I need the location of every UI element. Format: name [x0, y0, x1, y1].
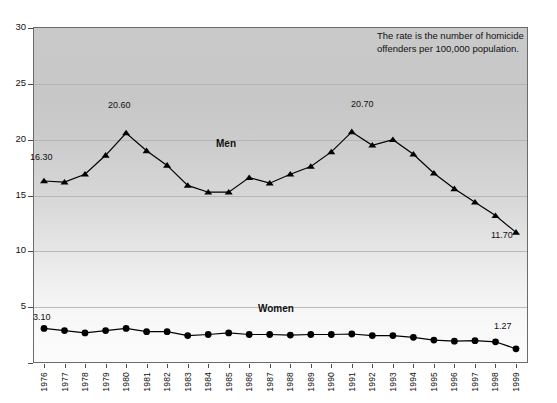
x-axis-label: 1986: [244, 372, 254, 392]
x-axis-tick: [229, 364, 230, 368]
x-axis-label: 1988: [285, 372, 295, 392]
x-axis-tick: [311, 364, 312, 368]
x-axis-tick: [290, 364, 291, 368]
x-axis-tick: [85, 364, 86, 368]
x-axis-label: 1984: [203, 372, 213, 392]
x-axis-tick: [249, 364, 250, 368]
gridline: [34, 251, 527, 252]
chart-annotation: The rate is the number of homicide offen…: [377, 30, 524, 55]
x-axis-label: 1978: [80, 372, 90, 392]
x-axis-label: 1994: [408, 372, 418, 392]
y-axis-label: 25: [2, 78, 26, 88]
y-axis-label: 30: [2, 22, 26, 32]
x-axis-tick: [65, 364, 66, 368]
x-axis-tick: [413, 364, 414, 368]
x-axis-tick: [208, 364, 209, 368]
series-label-men: Men: [216, 138, 236, 149]
y-axis-tick: [28, 28, 33, 29]
x-axis-label: 1987: [265, 372, 275, 392]
x-axis-label: 1985: [224, 372, 234, 392]
x-axis-label: 1999: [511, 372, 521, 392]
x-axis-label: 1976: [39, 372, 49, 392]
gridline: [34, 84, 527, 85]
x-axis-label: 1997: [470, 372, 480, 392]
point-label-women-last: 1.27: [494, 321, 512, 331]
gridline: [34, 140, 527, 141]
x-axis-tick: [147, 364, 148, 368]
y-axis-tick: [28, 251, 33, 252]
homicide-offender-rate-chart: 51015202530 1976197719781979198019811982…: [0, 0, 557, 403]
x-axis-tick: [516, 364, 517, 368]
x-axis-tick: [454, 364, 455, 368]
x-axis-tick: [270, 364, 271, 368]
x-axis-label: 1983: [183, 372, 193, 392]
x-axis-tick: [188, 364, 189, 368]
x-axis-label: 1996: [449, 372, 459, 392]
x-axis-tick: [475, 364, 476, 368]
x-axis-label: 1980: [121, 372, 131, 392]
x-axis-label: 1981: [142, 372, 152, 392]
x-axis-label: 1990: [326, 372, 336, 392]
x-axis-label: 1993: [388, 372, 398, 392]
x-axis-tick: [331, 364, 332, 368]
x-axis-tick: [434, 364, 435, 368]
x-axis-label: 1982: [162, 372, 172, 392]
x-axis-tick: [126, 364, 127, 368]
y-axis-label: 20: [2, 134, 26, 144]
gridline: [34, 196, 527, 197]
y-axis-tick: [28, 196, 33, 197]
y-axis-tick: [28, 140, 33, 141]
y-axis-tick: [28, 307, 33, 308]
point-label-men-last: 11.70: [491, 230, 513, 240]
y-axis-label: 5: [2, 301, 26, 311]
y-axis-tick: [28, 84, 33, 85]
point-label-men-peak-1991: 20.70: [351, 99, 374, 109]
y-axis-label: 15: [2, 190, 26, 200]
y-axis-label: 10: [2, 245, 26, 255]
x-axis-label: 1998: [490, 372, 500, 392]
x-axis-label: 1979: [101, 372, 111, 392]
x-axis-tick: [495, 364, 496, 368]
x-axis-tick: [352, 364, 353, 368]
x-axis-tick: [393, 364, 394, 368]
series-label-women: Women: [258, 303, 294, 314]
x-axis-label: 1989: [306, 372, 316, 392]
x-axis-label: 1995: [429, 372, 439, 392]
x-axis-tick: [167, 364, 168, 368]
y-axis-tick: [28, 363, 33, 364]
x-axis-label: 1977: [60, 372, 70, 392]
x-axis-tick: [44, 364, 45, 368]
point-label-men-first: 16.30: [30, 152, 53, 162]
point-label-men-peak-1980: 20.60: [108, 100, 131, 110]
x-axis-tick: [106, 364, 107, 368]
x-axis-label: 1992: [367, 372, 377, 392]
x-axis-label: 1991: [347, 372, 357, 392]
point-label-women-first: 3.10: [33, 312, 51, 322]
x-axis-tick: [372, 364, 373, 368]
